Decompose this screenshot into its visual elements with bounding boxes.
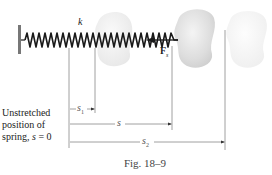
figure-caption: Fig. 18–9 [0, 157, 272, 169]
dimension-s [70, 123, 172, 126]
note-line-3-prefix: spring, [2, 131, 32, 142]
spring-force-subscript: s [166, 52, 168, 58]
unstretched-position-note: Unstretched position of spring, s = 0 [2, 107, 52, 143]
note-line-2: position of [2, 119, 52, 131]
s2-label: s2 [142, 135, 149, 148]
spring-force-label: Fs [160, 45, 168, 58]
block-position-s2 [226, 11, 267, 68]
figure-caption-text: Fig. 18–9 [124, 157, 166, 169]
note-line-3: spring, s = 0 [2, 131, 52, 143]
s1-subscript: 1 [81, 109, 84, 115]
note-line-1: Unstretched [2, 107, 52, 119]
s-label: s [117, 117, 121, 128]
s1-label: s1 [77, 102, 84, 115]
s2-subscript: 2 [146, 142, 149, 148]
spring-constant-label: k [78, 16, 82, 27]
note-line-3-suffix: = 0 [36, 131, 52, 142]
diagram-canvas [0, 0, 272, 175]
block-position-s [174, 9, 215, 67]
wall-support [18, 25, 21, 54]
